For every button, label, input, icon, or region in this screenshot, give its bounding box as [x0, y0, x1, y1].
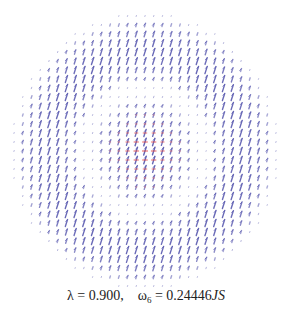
lambda-label: λ = 0.900, — [67, 288, 124, 303]
spin-vector-field — [0, 0, 292, 300]
omega-value: = 0.24446 — [151, 288, 211, 303]
omega-symbol: ω — [138, 288, 147, 303]
figure-caption: λ = 0.900,ω6 = 0.24446JS — [0, 288, 292, 305]
omega-unit: JS — [212, 288, 225, 303]
